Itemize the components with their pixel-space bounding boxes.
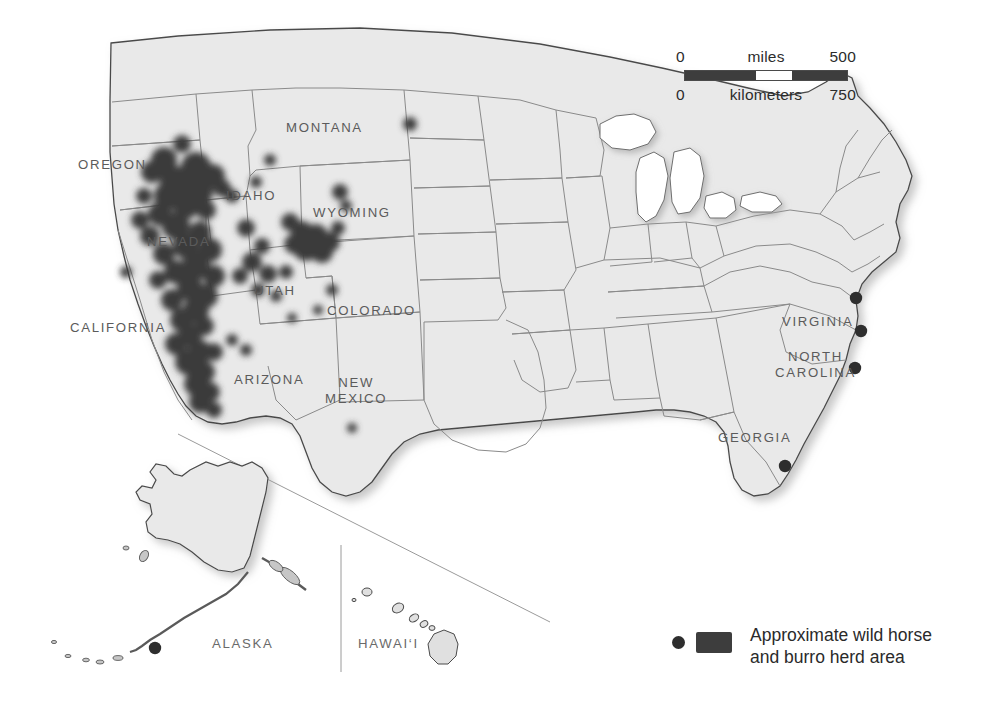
herd-area-blob [313, 305, 323, 315]
herd-area-blob [205, 343, 223, 361]
state-label-colorado: COLORADO [327, 303, 416, 318]
scale-km-max: 750 [830, 86, 856, 104]
herd-point-icon [672, 636, 685, 649]
herd-area-blob [259, 265, 277, 283]
scale-miles-max: 500 [830, 48, 856, 66]
herd-area-blob [120, 266, 132, 278]
inset-label-alaska: ALASKA [212, 636, 274, 651]
herd-area-blob [287, 313, 297, 323]
state-label-utah: UTAH [254, 283, 296, 298]
herd-area-blob [250, 176, 262, 188]
herd-area-blob [332, 184, 348, 200]
herd-area-blob [237, 219, 255, 237]
map-legend: Approximate wild horse and burro herd ar… [672, 622, 982, 678]
herd-area-blob [131, 211, 149, 229]
legend-label-line2: and burro herd area [750, 646, 980, 668]
herd-area-blob [240, 344, 252, 356]
state-label-virginia: VIRGINIA [782, 314, 854, 329]
herd-point-chincoteague-assateague [850, 292, 862, 304]
wild-horse-burro-herd-map: 0 miles 500 0 kilometers 750 Approximate… [0, 0, 999, 716]
scale-segment-3 [792, 71, 847, 80]
herd-area-blob [311, 241, 333, 263]
state-label-wyoming: WYOMING [313, 205, 391, 220]
alaska-inset [136, 462, 268, 572]
herd-area-blob [203, 265, 225, 287]
herd-area-blob [254, 238, 270, 254]
scale-bar: 0 miles 500 0 kilometers 750 [676, 48, 856, 106]
hawaii-inset [352, 588, 458, 664]
herd-area-blob [161, 289, 183, 311]
herd-area-blob [149, 271, 167, 289]
inset-label-hawaii: HAWAI‘I [358, 636, 419, 651]
herd-area-blob [136, 188, 152, 204]
state-label-idaho: IDAHO [226, 188, 276, 203]
state-label-california: CALIFORNIA [70, 320, 166, 335]
herd-area-blob [226, 334, 238, 346]
herd-area-blob [331, 221, 345, 235]
herd-point-cumberland-island [779, 460, 791, 472]
scale-bar-kilometers-row: 0 kilometers 750 [676, 86, 856, 104]
herd-point-alaska-aleutian [149, 642, 161, 654]
herd-area-blob [347, 423, 357, 433]
herd-area-blob [264, 154, 276, 166]
herd-area-blob [232, 268, 248, 284]
herd-area-blob [403, 117, 417, 131]
herd-area-blob [206, 402, 222, 418]
state-label-georgia: GEORGIA [718, 430, 791, 445]
herd-area-blob [242, 252, 262, 272]
scale-bar-miles-row: 0 miles 500 [676, 48, 856, 66]
scale-bar-track [684, 70, 848, 81]
scale-segment-1 [685, 71, 756, 80]
scale-segment-2 [756, 71, 792, 80]
state-label-montana: MONTANA [286, 120, 363, 135]
legend-label: Approximate wild horse and burro herd ar… [750, 624, 980, 668]
state-label-nevada: NEVADA [147, 234, 210, 249]
herd-point-outer-banks-north [855, 325, 867, 337]
state-label-new-mexico: NEWMEXICO [325, 375, 387, 407]
state-label-arizona: ARIZONA [234, 372, 305, 387]
herd-area-blob [173, 135, 191, 153]
state-label-north-carolina: NORTHCAROLINA [775, 349, 856, 381]
herd-area-blob [196, 200, 216, 220]
legend-label-line1: Approximate wild horse [750, 624, 980, 646]
herd-area-blob [326, 284, 338, 296]
herd-area-blob [284, 234, 304, 254]
herd-area-blob [279, 265, 293, 279]
state-label-oregon: OREGON [78, 157, 147, 172]
herd-area-swatch-icon [696, 632, 732, 653]
